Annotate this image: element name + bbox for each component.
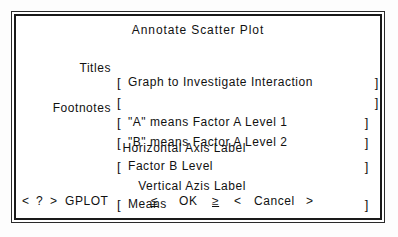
scanned-page: Annotate Scatter Plot Titles [ Graph to … [0, 0, 398, 237]
annotate-scatter-plot-dialog: Annotate Scatter Plot Titles [ Graph to … [11, 11, 385, 223]
ok-next-icon[interactable]: ≥ [212, 194, 219, 208]
form-row-horizontal-axis-label: Horizontal Axis Label [16, 127, 380, 145]
cancel-next-chevron-icon[interactable]: > [306, 194, 314, 208]
ok-prev-icon[interactable]: ≤ [151, 194, 158, 208]
form-row-horizontal-axis-field: [ Factor B Level ] [16, 145, 380, 163]
form-row-titles-1: Titles [ Graph to Investigate Interactio… [16, 47, 380, 65]
procedure-name: GPLOT [65, 194, 108, 208]
help-button[interactable]: ? [36, 194, 43, 208]
cancel-prev-chevron-icon[interactable]: < [234, 194, 242, 208]
help-next-chevron-icon[interactable]: > [50, 194, 58, 208]
form-row-footnotes-2: [ "B" means Factor A Level 2 ] [16, 107, 380, 125]
help-prev-chevron-icon[interactable]: < [22, 194, 30, 208]
form-row-footnotes-1: Footnotes [ "A" means Factor A Level 1 ] [16, 87, 380, 105]
form-row-vertical-axis-label: Vertical Azis Label [16, 165, 380, 183]
ok-button[interactable]: OK [179, 194, 197, 208]
dialog-title: Annotate Scatter Plot [16, 23, 380, 37]
command-bar: < ? > GPLOT ≤ OK ≥ < Cancel > [16, 194, 380, 212]
dialog-inner-frame: Annotate Scatter Plot Titles [ Graph to … [14, 14, 382, 220]
form-row-titles-2: [ ] [16, 67, 380, 85]
cancel-button[interactable]: Cancel [254, 194, 295, 208]
